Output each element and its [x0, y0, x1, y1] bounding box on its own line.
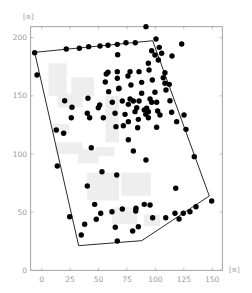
- data-point: [92, 202, 97, 207]
- data-point: [131, 98, 136, 103]
- data-point: [113, 124, 118, 129]
- data-point: [97, 102, 102, 107]
- data-point: [69, 105, 74, 110]
- data-point: [135, 125, 140, 130]
- data-point: [181, 211, 186, 216]
- data-point: [167, 98, 172, 103]
- data-point: [101, 115, 106, 120]
- data-point: [173, 186, 178, 191]
- data-point: [127, 69, 132, 74]
- x-axis-unit-label: [m]: [228, 266, 241, 274]
- data-point: [181, 112, 186, 117]
- x-tick-label: 0: [39, 275, 44, 284]
- data-point: [64, 46, 69, 51]
- data-point: [62, 98, 67, 103]
- data-point: [157, 112, 162, 117]
- data-point: [154, 125, 159, 130]
- x-tick-label: 75: [122, 275, 132, 284]
- data-point: [120, 98, 125, 103]
- data-point: [136, 117, 141, 122]
- x-tick-label: 100: [148, 275, 163, 284]
- data-point: [105, 43, 110, 48]
- data-point: [106, 89, 111, 94]
- data-point: [104, 71, 109, 76]
- data-point: [150, 77, 155, 82]
- data-point: [54, 127, 59, 132]
- data-point: [149, 48, 154, 53]
- data-point: [97, 43, 102, 48]
- data-point: [120, 206, 125, 211]
- data-point: [86, 44, 91, 49]
- data-point: [153, 36, 158, 41]
- data-point: [122, 112, 127, 117]
- data-point: [116, 86, 121, 91]
- data-point: [99, 169, 104, 174]
- data-point: [187, 209, 192, 214]
- data-point: [98, 211, 103, 216]
- data-point: [85, 183, 90, 188]
- data-point: [143, 24, 148, 29]
- data-point: [79, 232, 84, 237]
- data-point: [163, 215, 168, 220]
- data-point: [133, 208, 138, 213]
- data-point: [161, 75, 166, 80]
- data-point: [103, 79, 108, 84]
- data-point: [157, 45, 162, 50]
- building-footprint: [78, 149, 98, 163]
- building-footprint: [49, 63, 67, 96]
- data-point: [132, 109, 137, 114]
- data-point: [209, 198, 214, 203]
- data-point: [113, 225, 118, 230]
- y-tick-label: 200: [13, 33, 28, 42]
- x-tick-label: 125: [177, 275, 192, 284]
- data-point: [149, 100, 154, 105]
- data-point: [143, 157, 148, 162]
- data-point: [110, 100, 115, 105]
- x-tick-label: 25: [65, 275, 75, 284]
- building-footprint: [71, 77, 94, 96]
- data-point: [150, 215, 155, 220]
- building-footprint: [121, 173, 151, 196]
- data-point: [156, 57, 161, 62]
- data-point: [172, 211, 177, 216]
- data-point: [115, 76, 120, 81]
- y-tick-label: 50: [17, 208, 27, 217]
- data-point: [139, 80, 144, 85]
- data-point: [152, 90, 157, 95]
- data-point: [176, 216, 181, 221]
- data-point: [136, 224, 141, 229]
- building-footprints: [49, 63, 160, 226]
- data-point: [115, 69, 120, 74]
- data-point: [131, 148, 136, 153]
- data-point: [112, 111, 117, 116]
- data-point: [147, 202, 152, 207]
- y-tick-label: 100: [13, 150, 28, 159]
- scatter-chart: 0255075100125150 050100150200 [m] [m]: [0, 0, 252, 293]
- data-point: [32, 50, 37, 55]
- data-point: [34, 72, 39, 77]
- data-point: [146, 67, 151, 72]
- data-point: [128, 82, 133, 87]
- data-point: [136, 98, 141, 103]
- data-point: [167, 82, 172, 87]
- data-point: [115, 52, 120, 57]
- data-point: [85, 111, 90, 116]
- building-footprint: [96, 147, 114, 156]
- data-point: [174, 119, 179, 124]
- data-point: [69, 115, 74, 120]
- data-point: [85, 96, 90, 101]
- y-tick-label: 150: [13, 91, 28, 100]
- y-axis-unit-label: [m]: [22, 13, 35, 21]
- data-point: [179, 41, 184, 46]
- data-point: [114, 172, 119, 177]
- data-point: [133, 40, 138, 45]
- building-footprint: [87, 173, 119, 201]
- data-point: [89, 145, 94, 150]
- data-point: [126, 102, 131, 107]
- data-point: [169, 53, 174, 58]
- data-point: [183, 127, 188, 132]
- data-point: [159, 51, 164, 56]
- data-point: [82, 222, 87, 227]
- data-point: [163, 87, 168, 92]
- data-point: [192, 154, 197, 159]
